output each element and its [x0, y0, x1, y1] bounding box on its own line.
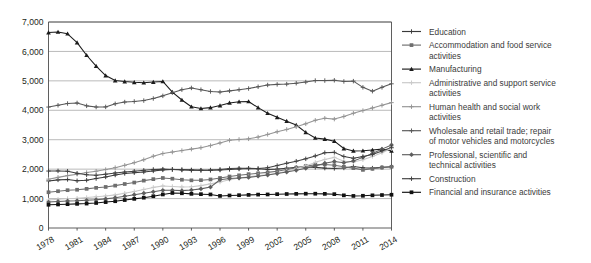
series-marker — [113, 184, 117, 188]
series-marker — [75, 101, 79, 105]
series-marker — [332, 150, 336, 154]
series-marker — [323, 150, 327, 154]
series-marker — [103, 105, 107, 109]
y-tick-label: 0 — [39, 223, 44, 233]
series-marker — [275, 192, 279, 196]
series-marker — [170, 167, 174, 171]
legend-label: activities — [429, 112, 461, 122]
series-marker — [56, 203, 60, 207]
legend-label: Manufacturing — [429, 64, 482, 74]
series-marker — [189, 168, 193, 172]
series-polyline — [49, 145, 392, 202]
series-marker — [103, 172, 107, 176]
series-marker — [390, 165, 394, 169]
series-marker — [256, 135, 260, 139]
series-marker — [332, 192, 336, 196]
y-tick-label: 5,000 — [22, 76, 44, 86]
series-marker — [199, 186, 204, 191]
series-marker — [313, 78, 317, 82]
legend-item[interactable]: Human health and social workactivities — [402, 102, 541, 122]
series-marker — [237, 87, 241, 91]
legend-marker-icon — [409, 80, 413, 84]
series-marker — [132, 99, 136, 103]
x-tick-label: 2005 — [292, 234, 314, 252]
x-tick-label: 1999 — [235, 234, 257, 252]
x-tick-label: 1990 — [149, 234, 171, 252]
series-marker — [380, 193, 384, 197]
series-marker — [56, 103, 60, 107]
series-marker — [218, 141, 222, 145]
series-marker — [256, 85, 260, 89]
series-marker — [323, 166, 327, 170]
legend-item[interactable]: Administrative and support serviceactivi… — [402, 78, 556, 98]
series-marker — [46, 105, 50, 109]
y-tick-label: 3,000 — [22, 135, 44, 145]
series-marker — [141, 191, 146, 196]
series-marker — [323, 192, 327, 196]
series-marker — [123, 163, 127, 167]
series-marker — [247, 193, 251, 197]
series-polyline — [49, 149, 392, 201]
legend-label: Professional, scientific and — [429, 150, 528, 160]
series-marker — [304, 192, 308, 196]
legend-marker-icon — [409, 176, 413, 180]
series-marker — [361, 108, 365, 112]
y-tick-label: 7,000 — [22, 17, 44, 27]
series-marker — [180, 87, 184, 91]
series-marker — [352, 166, 356, 170]
data-series-group — [46, 30, 394, 207]
series-marker — [190, 178, 194, 182]
legend-item[interactable]: Financial and insurance activities — [402, 187, 551, 197]
series-marker — [180, 178, 184, 182]
series-marker — [122, 194, 127, 199]
y-axis-tick-labels: 01,0002,0003,0004,0005,0006,0007,000 — [22, 17, 44, 233]
legend-item[interactable]: Construction — [402, 174, 476, 184]
series-marker — [265, 83, 269, 87]
series-marker — [189, 86, 193, 90]
x-tick-label: 2011 — [349, 234, 370, 252]
series-marker — [132, 181, 136, 185]
series-marker — [56, 175, 60, 179]
series-marker — [342, 154, 346, 158]
legend-item[interactable]: Accommodation and food serviceactivities — [402, 40, 552, 60]
series-marker — [228, 194, 232, 198]
line-chart: 01,0002,0003,0004,0005,0006,0007,000 197… — [0, 0, 591, 263]
series-marker — [142, 98, 146, 102]
legend-item[interactable]: Wholesale and retail trade; repairof mot… — [402, 126, 554, 146]
series-marker — [256, 166, 260, 170]
series-marker — [370, 106, 374, 110]
legend-label: activities — [429, 51, 461, 61]
series-marker — [161, 167, 165, 171]
series-marker — [246, 166, 250, 170]
legend-marker-icon — [410, 190, 414, 194]
series-marker — [227, 89, 231, 93]
y-tick-label: 4,000 — [22, 105, 44, 115]
series-marker — [151, 96, 155, 100]
legend-item[interactable]: Education — [402, 27, 466, 37]
series-marker — [304, 157, 308, 161]
series-marker — [323, 78, 327, 82]
x-tick-label: 2002 — [263, 234, 285, 252]
legend-item[interactable]: Manufacturing — [402, 64, 482, 74]
series-marker — [275, 130, 279, 134]
series-marker — [94, 186, 98, 190]
series-marker — [209, 178, 213, 182]
legend-label: Human health and social work — [429, 102, 541, 112]
y-tick-label: 1,000 — [22, 194, 44, 204]
series-marker — [189, 188, 194, 193]
series-marker — [370, 89, 374, 93]
x-tick-label: 2014 — [377, 234, 399, 252]
series-marker — [266, 193, 270, 197]
legend-item[interactable]: Professional, scientific andtechnical ac… — [402, 150, 528, 170]
series-marker — [65, 169, 69, 173]
legend-label: Construction — [429, 174, 476, 184]
series-marker — [170, 150, 174, 154]
series-marker — [342, 79, 346, 83]
series-marker — [94, 201, 98, 205]
series-marker — [380, 103, 384, 107]
legend-marker-icon — [409, 152, 414, 157]
series-marker — [208, 143, 212, 147]
series-marker — [151, 185, 155, 189]
series-marker — [313, 154, 317, 158]
series-marker — [132, 160, 136, 164]
